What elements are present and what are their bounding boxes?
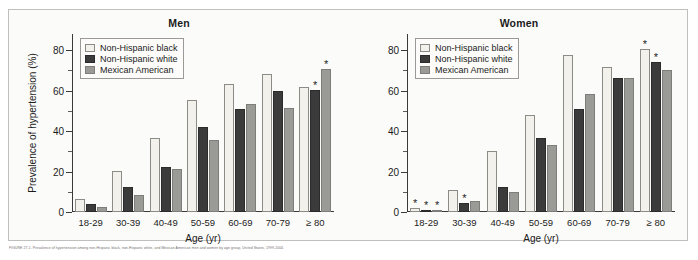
legend-label-non-hispanic-black: Non-Hispanic black xyxy=(100,43,178,53)
bar xyxy=(470,201,480,212)
figure-frame: Men Prevalence of hypertension (%) 02040… xyxy=(8,9,688,241)
legend-label-mexican-american: Mexican American xyxy=(100,65,174,75)
x-tick-label: 50-59 xyxy=(522,217,560,228)
legend-swatch-non-hispanic-black xyxy=(85,44,95,52)
significance-star-icon: * xyxy=(424,200,428,211)
y-tick-label-0: 0 xyxy=(393,207,399,218)
y-tick-label-40: 40 xyxy=(53,126,64,137)
significance-star-icon: * xyxy=(413,198,417,209)
bar xyxy=(585,94,595,212)
figure-container: Men Prevalence of hypertension (%) 02040… xyxy=(0,0,698,260)
y-tick-label-0: 0 xyxy=(58,207,64,218)
bar: * xyxy=(421,210,431,212)
bar xyxy=(613,78,623,213)
y-tick-0 xyxy=(401,212,407,213)
significance-star-icon: * xyxy=(324,59,328,70)
significance-star-icon: * xyxy=(462,193,466,204)
bar xyxy=(224,84,234,212)
bar xyxy=(246,104,256,212)
x-tick-label: 18-29 xyxy=(407,217,445,228)
bar: * xyxy=(310,90,320,212)
significance-star-icon: * xyxy=(643,39,647,50)
x-tick-label: 60-69 xyxy=(222,217,259,228)
bar xyxy=(448,190,458,212)
y-tick-label-80: 80 xyxy=(53,45,64,56)
panel-men: Men Prevalence of hypertension (%) 02040… xyxy=(9,10,349,242)
legend-label-non-hispanic-black: Non-Hispanic black xyxy=(435,43,513,53)
bar xyxy=(602,67,612,212)
legend-item-non-hispanic-white: Non-Hispanic white xyxy=(85,53,178,64)
bar xyxy=(547,145,557,212)
legend-swatch-mexican-american xyxy=(85,66,95,74)
legend-item-non-hispanic-black: Non-Hispanic black xyxy=(420,42,513,53)
legend-men: Non-Hispanic black Non-Hispanic white Me… xyxy=(80,38,184,79)
figure-caption: FIGURE 27-1. Prevalence of hypertension … xyxy=(9,246,689,251)
x-tick-label: 60-69 xyxy=(560,217,598,228)
bar xyxy=(198,127,208,212)
bar xyxy=(172,169,182,212)
bar-group: 60-69 xyxy=(222,34,259,212)
bar: * xyxy=(640,49,650,212)
x-tick-label: ≥ 80 xyxy=(297,217,334,228)
legend-item-mexican-american: Mexican American xyxy=(420,64,513,75)
bar: * xyxy=(432,210,442,212)
x-tick-label: 30-39 xyxy=(109,217,146,228)
y-tick-label-40: 40 xyxy=(388,126,399,137)
bar xyxy=(574,109,584,212)
bar xyxy=(123,187,133,212)
significance-star-icon: * xyxy=(654,52,658,63)
plot-area-men: Prevalence of hypertension (%) 020406080… xyxy=(72,34,334,212)
bar xyxy=(161,167,171,213)
x-tick-label: 50-59 xyxy=(184,217,221,228)
bar-group: **≥ 80 xyxy=(637,34,675,212)
legend-swatch-mexican-american xyxy=(420,66,430,74)
bar: * xyxy=(321,69,331,212)
panel-women: Women 020406080 ***18-29*30-3940-4950-59… xyxy=(349,10,689,242)
x-tick-label: 18-29 xyxy=(72,217,109,228)
significance-star-icon: * xyxy=(435,200,439,211)
y-tick-label-20: 20 xyxy=(388,166,399,177)
y-tick-label-60: 60 xyxy=(388,85,399,96)
bar xyxy=(75,199,85,212)
legend-label-non-hispanic-white: Non-Hispanic white xyxy=(435,54,513,64)
bar xyxy=(563,55,573,212)
x-tick-label: 70-79 xyxy=(259,217,296,228)
bar-group: 50-59 xyxy=(522,34,560,212)
legend-label-mexican-american: Mexican American xyxy=(435,65,509,75)
bar xyxy=(235,109,245,212)
bar-group: **≥ 80 xyxy=(297,34,334,212)
bar xyxy=(273,91,283,212)
legend-swatch-non-hispanic-black xyxy=(420,44,430,52)
bar xyxy=(150,138,160,212)
bar-group: 50-59 xyxy=(184,34,221,212)
bar-group: 60-69 xyxy=(560,34,598,212)
legend-swatch-non-hispanic-white xyxy=(85,55,95,63)
bar xyxy=(97,207,107,212)
x-tick-label: 70-79 xyxy=(598,217,636,228)
bar xyxy=(284,108,294,212)
panel-title-men: Men xyxy=(9,17,349,29)
bar xyxy=(624,78,634,213)
legend-item-non-hispanic-black: Non-Hispanic black xyxy=(85,42,178,53)
x-tick-label: 40-49 xyxy=(484,217,522,228)
x-axis-label-men: Age (yr) xyxy=(72,233,334,244)
bar-group: 70-79 xyxy=(598,34,636,212)
legend-item-non-hispanic-white: Non-Hispanic white xyxy=(420,53,513,64)
bar xyxy=(134,195,144,212)
bar xyxy=(487,151,497,212)
x-axis-label-women: Age (yr) xyxy=(407,233,675,244)
y-tick-label-80: 80 xyxy=(388,45,399,56)
x-tick-label: 30-39 xyxy=(445,217,483,228)
y-tick-label-60: 60 xyxy=(53,85,64,96)
legend-item-mexican-american: Mexican American xyxy=(85,64,178,75)
y-tick-label-20: 20 xyxy=(53,166,64,177)
bar xyxy=(299,87,309,212)
significance-star-icon: * xyxy=(313,80,317,91)
bar xyxy=(112,171,122,212)
bar xyxy=(86,204,96,212)
legend-swatch-non-hispanic-white xyxy=(420,55,430,63)
panel-title-women: Women xyxy=(349,17,689,29)
y-tick-0 xyxy=(66,212,72,213)
bar xyxy=(525,115,535,212)
bar xyxy=(187,100,197,212)
